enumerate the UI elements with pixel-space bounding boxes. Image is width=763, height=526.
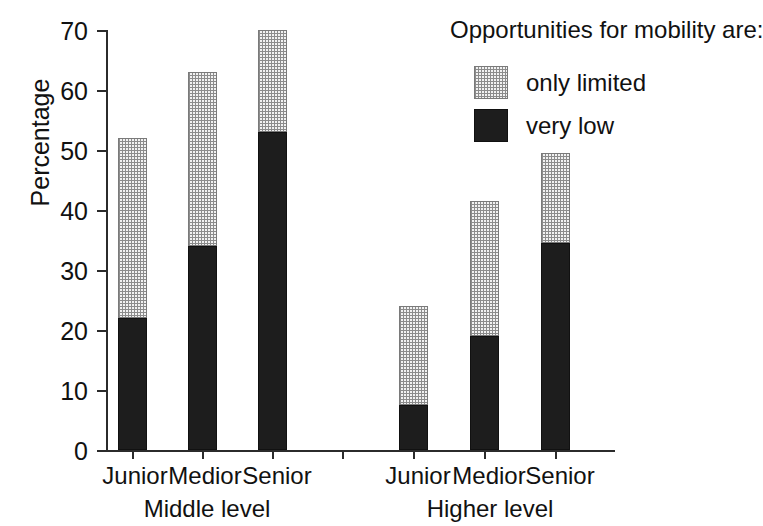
y-tick-20: 20	[97, 330, 106, 332]
legend-title: Opportunities for mobility are:	[450, 16, 760, 44]
x-label-higher-medior: Medior	[452, 462, 525, 490]
bar-segment-very-low	[399, 405, 428, 450]
y-tick-40: 40	[97, 210, 106, 212]
x-group-label-higher-level: Higher level	[427, 495, 554, 523]
bar-segment-only-limited	[541, 153, 570, 243]
bar-segment-only-limited	[470, 201, 499, 336]
x-label-middle-medior: Medior	[168, 462, 241, 490]
y-tick-label-30: 30	[60, 257, 88, 286]
x-group-label-middle-level: Middle level	[144, 495, 271, 523]
y-tick-70: 70	[97, 30, 106, 32]
legend-swatch-only-limited-icon	[474, 66, 508, 99]
y-tick-10: 10	[97, 390, 106, 392]
y-tick-label-20: 20	[60, 317, 88, 346]
bar-segment-very-low	[470, 336, 499, 450]
bar-segment-only-limited	[188, 72, 217, 246]
bar-segment-very-low	[541, 243, 570, 450]
x-label-higher-senior: Senior	[525, 462, 594, 490]
bar-segment-only-limited	[118, 138, 147, 318]
x-label-middle-senior: Senior	[242, 462, 311, 490]
y-tick-label-0: 0	[74, 437, 88, 466]
legend-swatch-very-low-icon	[474, 109, 508, 142]
x-tick-2	[202, 450, 204, 459]
bar-higher-senior[interactable]	[541, 153, 570, 450]
bar-segment-only-limited	[258, 30, 287, 132]
legend-item-very-low[interactable]: very low	[474, 109, 760, 142]
x-tick-5	[484, 450, 486, 459]
x-label-middle-junior: Junior	[102, 462, 167, 490]
x-tick-separator	[342, 450, 344, 459]
y-tick-label-60: 60	[60, 77, 88, 106]
x-tick-1	[132, 450, 134, 459]
y-axis-title: Percentage	[26, 43, 55, 243]
x-axis-line	[106, 450, 615, 452]
bar-higher-junior[interactable]	[399, 306, 428, 450]
bar-segment-very-low	[258, 132, 287, 450]
bar-middle-junior[interactable]	[118, 138, 147, 450]
y-tick-50: 50	[97, 150, 106, 152]
x-tick-4	[413, 450, 415, 459]
y-tick-label-10: 10	[60, 377, 88, 406]
y-tick-60: 60	[97, 90, 106, 92]
bar-higher-medior[interactable]	[470, 201, 499, 450]
x-tick-6	[555, 450, 557, 459]
bar-segment-very-low	[188, 246, 217, 450]
stacked-bar-chart: Percentage 0 10 20 30 40 50 60 70	[0, 0, 763, 526]
y-axis-line	[106, 30, 108, 450]
x-tick-3	[272, 450, 274, 459]
bar-segment-only-limited	[399, 306, 428, 405]
y-tick-30: 30	[97, 270, 106, 272]
legend: Opportunities for mobility are: only lim…	[450, 16, 760, 152]
y-tick-label-50: 50	[60, 137, 88, 166]
legend-item-only-limited[interactable]: only limited	[474, 66, 760, 99]
bar-middle-senior[interactable]	[258, 30, 287, 450]
legend-label-only-limited: only limited	[526, 69, 646, 97]
bar-middle-medior[interactable]	[188, 72, 217, 450]
x-label-higher-junior: Junior	[385, 462, 450, 490]
bar-segment-very-low	[118, 318, 147, 450]
y-tick-label-40: 40	[60, 197, 88, 226]
legend-label-very-low: very low	[526, 112, 614, 140]
y-tick-0: 0	[97, 450, 106, 452]
y-tick-label-70: 70	[60, 17, 88, 46]
